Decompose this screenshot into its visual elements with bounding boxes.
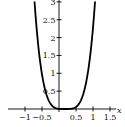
y-tick-label: 2 (50, 34, 55, 43)
x-tick-label: −0.5 (32, 113, 51, 122)
x-axis-label: x (117, 106, 122, 115)
y-tick-label: 1 (50, 69, 55, 78)
axes (8, 0, 116, 112)
y-tick-label: 3 (50, 0, 55, 7)
x-tick-label: −1 (19, 113, 31, 122)
x-tick-label: 1 (90, 113, 95, 122)
line-chart: −1−0.50.511.5 0.511.522.53 x (0, 0, 125, 127)
x-tick-label: 0.5 (70, 113, 83, 122)
y-tick-label: 1.5 (43, 51, 56, 60)
x-tick-label: 1.5 (104, 113, 117, 122)
y-tick-label: 2.5 (43, 16, 56, 25)
